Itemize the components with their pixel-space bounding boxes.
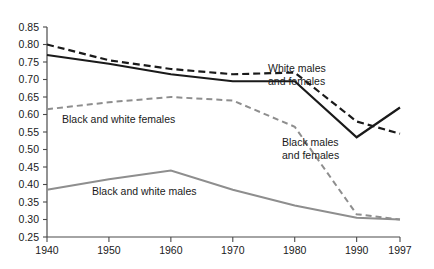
annotation-label: and females	[268, 75, 325, 87]
x-tick-label: 1970	[221, 244, 245, 256]
y-tick-label: 0.65	[19, 91, 40, 103]
chart-background	[0, 0, 434, 269]
x-tick-label: 1997	[388, 244, 412, 256]
y-tick-label: 0.25	[19, 231, 40, 243]
y-tick-label: 0.50	[19, 143, 40, 155]
x-tick-label: 1980	[283, 244, 307, 256]
y-tick-label: 0.55	[19, 126, 40, 138]
y-tick-label: 0.45	[19, 161, 40, 173]
y-tick-label: 0.85	[19, 21, 40, 33]
annotation-label: and females	[282, 149, 339, 161]
annotation-label: Black and white males	[92, 185, 196, 197]
annotation-label: White males	[268, 62, 326, 74]
chart-canvas: 0.850.800.750.700.650.600.550.500.450.40…	[0, 0, 434, 269]
annotation-label: Black and white females	[62, 113, 175, 125]
y-tick-label: 0.40	[19, 178, 40, 190]
x-tick-label: 1990	[345, 244, 369, 256]
y-tick-label: 0.35	[19, 196, 40, 208]
y-tick-label: 0.60	[19, 108, 40, 120]
y-tick-label: 0.75	[19, 56, 40, 68]
x-tick-label: 1940	[35, 244, 59, 256]
y-tick-label: 0.30	[19, 213, 40, 225]
line-chart: 0.850.800.750.700.650.600.550.500.450.40…	[0, 0, 434, 269]
y-tick-label: 0.70	[19, 73, 40, 85]
x-tick-label: 1950	[97, 244, 121, 256]
annotation-label: Black males	[282, 136, 339, 148]
y-tick-label: 0.80	[19, 38, 40, 50]
x-tick-label: 1960	[159, 244, 183, 256]
